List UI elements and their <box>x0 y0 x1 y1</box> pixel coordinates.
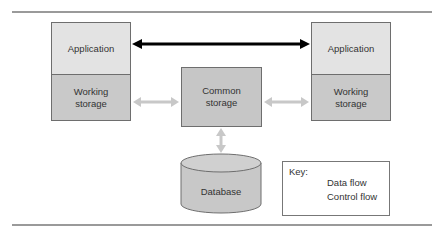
data-flow-arrow-left <box>133 97 179 107</box>
legend-box: Key: Data flow Control flow <box>282 161 390 216</box>
control-flow-arrow <box>132 39 310 49</box>
legend-title: Key: <box>289 166 308 177</box>
database-label: Database <box>181 186 261 197</box>
legend-data-flow-label: Data flow <box>327 177 367 188</box>
data-flow-arrow-right <box>264 97 309 107</box>
data-flow-arrow-vertical <box>216 128 226 153</box>
database-cylinder-icon <box>181 154 261 213</box>
legend-control-flow-label: Control flow <box>327 191 377 202</box>
